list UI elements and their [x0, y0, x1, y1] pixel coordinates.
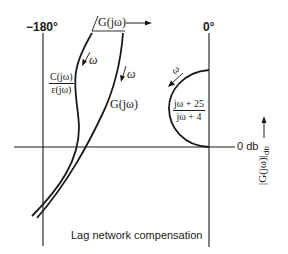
magnitude-axis-label: |G(jω)|db	[256, 146, 271, 185]
magnitude-axis-label-subscript: db	[262, 146, 271, 155]
magnitude-axis-label-main: |G(jω)|	[256, 155, 268, 185]
lag-network-compensation-diagram: −180° 0° G(jω) 0 db |G(jω)|db C(jω) ε(jω…	[0, 0, 288, 254]
open-loop-omega-label: ω	[127, 68, 135, 80]
phase-axis-arrow-icon	[145, 21, 152, 26]
zero-degree-label: 0°	[203, 21, 214, 33]
lag-network-numerator: jω + 25	[173, 99, 205, 111]
closed-loop-omega-label: ω	[89, 54, 97, 66]
closed-loop-denominator: ε(jω)	[51, 84, 71, 95]
open-loop-label: G(jω)	[110, 98, 138, 110]
open-loop-omega-arrow-icon	[120, 75, 125, 82]
closed-loop-omega-arrow-icon	[82, 59, 87, 66]
lag-network-label: jω + 25 jω + 4	[173, 99, 205, 122]
closed-loop-label: C(jω) ε(jω)	[49, 72, 74, 95]
figure-caption: Lag network compensation	[71, 230, 202, 241]
minus-180-degree-label: −180°	[26, 21, 58, 33]
phase-axis-label: G(jω)	[98, 16, 126, 28]
open-loop-curve	[37, 33, 123, 218]
lag-network-denominator: jω + 4	[177, 111, 202, 122]
diagram-canvas	[0, 0, 288, 254]
closed-loop-numerator: C(jω)	[49, 72, 74, 84]
magnitude-axis-arrow-icon	[262, 116, 267, 123]
